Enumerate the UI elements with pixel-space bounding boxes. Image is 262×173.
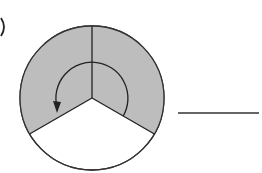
circle-fraction-diagram: [0, 0, 262, 173]
label-parenthesis: [1, 18, 4, 36]
